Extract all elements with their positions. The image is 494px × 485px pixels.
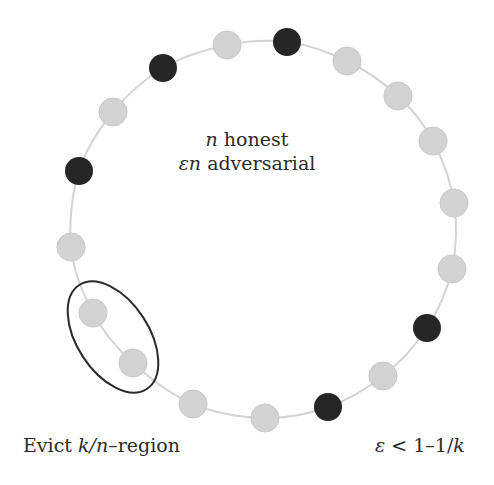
honest-node <box>79 299 107 327</box>
honest-node <box>333 47 361 75</box>
bound-text: < 1–1/ <box>385 434 453 456</box>
honest-node <box>438 255 466 283</box>
adversarial-count-label: εn adversarial <box>0 151 494 175</box>
adversarial-var: εn <box>179 152 201 174</box>
adversarial-node <box>314 393 342 421</box>
epsilon-var: ε <box>375 434 385 456</box>
honest-var: n <box>206 128 218 150</box>
honest-node <box>384 82 412 110</box>
evict-prefix: Evict <box>23 434 78 456</box>
evict-suffix: –region <box>108 434 180 456</box>
honest-node <box>213 31 241 59</box>
honest-node <box>99 98 127 126</box>
honest-node <box>119 349 147 377</box>
adversarial-node <box>273 28 301 56</box>
center-label: n honest εn adversarial <box>0 127 494 175</box>
honest-node <box>179 390 207 418</box>
ring-diagram <box>0 0 494 485</box>
honest-node <box>251 404 279 432</box>
honest-node <box>440 189 468 217</box>
adversarial-text: adversarial <box>201 152 315 174</box>
k-var: k <box>453 434 465 456</box>
honest-node <box>57 233 85 261</box>
evict-var: k/n <box>78 434 108 456</box>
honest-text: honest <box>218 128 289 150</box>
adversarial-node <box>413 314 441 342</box>
honest-count-label: n honest <box>0 127 494 151</box>
epsilon-bound-label: ε < 1–1/k <box>375 434 465 456</box>
honest-node <box>369 362 397 390</box>
evict-region-ellipse <box>49 265 177 408</box>
adversarial-node <box>149 54 177 82</box>
evict-region-label: Evict k/n–region <box>23 434 180 456</box>
